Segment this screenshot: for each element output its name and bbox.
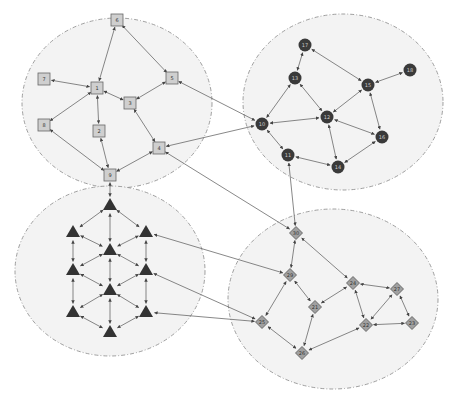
node-label: 6	[115, 17, 118, 23]
node-circle-16[interactable]: 16	[376, 131, 389, 144]
node-label: 23	[409, 320, 415, 326]
node-label: 14	[335, 164, 341, 170]
node-label: 3	[128, 100, 131, 106]
node-circle-10[interactable]: 10	[256, 118, 269, 131]
node-square-9[interactable]: 9	[104, 169, 116, 181]
node-label: 13	[292, 75, 298, 81]
node-label: 18	[407, 67, 413, 73]
node-label: 4	[157, 145, 160, 151]
node-circle-11[interactable]: 11	[282, 149, 295, 162]
node-label: 9	[108, 172, 111, 178]
node-square-1[interactable]: 1	[91, 82, 103, 94]
node-square-3[interactable]: 3	[124, 97, 136, 109]
node-square-5[interactable]: 5	[166, 72, 178, 84]
cluster-square-group	[22, 18, 212, 188]
node-square-6[interactable]: 6	[111, 14, 123, 26]
node-circle-13[interactable]: 13	[289, 72, 302, 85]
node-label: 29	[287, 272, 293, 278]
node-circle-17[interactable]: 17	[299, 39, 312, 52]
node-square-4[interactable]: 4	[153, 142, 165, 154]
node-label: 5	[170, 75, 173, 81]
node-square-8[interactable]: 8	[38, 119, 50, 131]
network-diagram: 6715382491713151812101114163029242721252…	[0, 0, 460, 404]
cluster-layer	[15, 14, 443, 389]
node-square-7[interactable]: 7	[38, 73, 50, 85]
node-label: 7	[42, 76, 45, 82]
node-circle-15[interactable]: 15	[362, 79, 375, 92]
node-label: 21	[312, 304, 318, 310]
node-circle-12[interactable]: 12	[321, 111, 334, 124]
node-label: 15	[365, 82, 371, 88]
node-label: 16	[379, 134, 385, 140]
node-label: 8	[42, 122, 45, 128]
node-circle-18[interactable]: 18	[404, 64, 417, 77]
node-label: 1	[95, 85, 98, 91]
node-label: 10	[259, 121, 265, 127]
node-label: 27	[394, 286, 400, 292]
node-label: 26	[299, 350, 305, 356]
node-circle-14[interactable]: 14	[332, 161, 345, 174]
node-label: 24	[350, 280, 356, 286]
node-label: 25	[259, 319, 265, 325]
node-label: 30	[293, 230, 299, 236]
node-label: 11	[285, 152, 291, 158]
node-label: 22	[363, 322, 369, 328]
node-label: 2	[97, 128, 100, 134]
node-square-2[interactable]: 2	[93, 125, 105, 137]
cluster-diamond-group	[228, 209, 438, 389]
node-label: 12	[324, 114, 330, 120]
node-label: 17	[302, 42, 308, 48]
graph-canvas: 6715382491713151812101114163029242721252…	[0, 0, 460, 404]
